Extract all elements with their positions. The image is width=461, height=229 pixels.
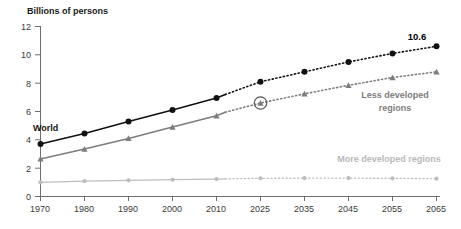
data-point-marker <box>302 176 306 180</box>
data-point-marker <box>82 130 88 136</box>
data-point-marker <box>345 82 351 88</box>
chart-canvas: Billions of persons 12 10 8 6 4 2 0 <box>0 0 461 229</box>
data-point-marker <box>38 141 44 147</box>
data-point-marker <box>346 59 352 65</box>
data-point-marker <box>258 79 264 85</box>
data-point-marker <box>38 180 42 184</box>
x-tick-1970: 1970 <box>30 204 50 214</box>
y-tick-2: 2 <box>26 164 31 174</box>
x-tick-1980: 1980 <box>74 204 94 214</box>
less-developed-series-label-line1: Less developed <box>361 90 429 100</box>
population-projection-chart: Billions of persons 12 10 8 6 4 2 0 <box>0 0 461 229</box>
y-tick-4: 4 <box>26 135 31 145</box>
series-less-developed-regions <box>37 69 439 162</box>
data-point-marker <box>390 176 394 180</box>
data-point-marker <box>346 176 350 180</box>
series-more-developed-regions <box>38 176 438 184</box>
projection-line <box>225 46 436 94</box>
data-point-marker <box>170 107 176 113</box>
y-axis-tick-labels: 12 10 8 6 4 2 0 <box>21 22 31 202</box>
data-point-marker <box>434 43 440 49</box>
y-tick-0: 0 <box>26 192 31 202</box>
data-point-marker <box>170 178 174 182</box>
data-point-marker <box>126 118 132 124</box>
x-tick-2035: 2035 <box>294 204 314 214</box>
x-tick-2055: 2055 <box>382 204 402 214</box>
y-tick-6: 6 <box>26 107 31 117</box>
y-tick-8: 8 <box>26 79 31 89</box>
historical-line <box>41 179 226 183</box>
less-developed-series-label-line2: regions <box>379 103 412 113</box>
x-axis-tick-labels: 1970 1980 1990 2000 2010 2025 2035 2045 … <box>30 204 446 214</box>
y-tick-12: 12 <box>21 22 31 32</box>
x-tick-2045: 2045 <box>338 204 358 214</box>
data-point-marker <box>390 50 396 56</box>
world-series-label: World <box>33 123 58 133</box>
y-axis-ticks <box>35 27 40 197</box>
x-tick-2000: 2000 <box>162 204 182 214</box>
world-end-value-label: 10.6 <box>408 31 427 42</box>
data-point-marker <box>214 177 218 181</box>
data-point-marker <box>258 176 262 180</box>
y-tick-10: 10 <box>21 50 31 60</box>
data-point-marker <box>214 95 220 101</box>
more-developed-series-label: More developed regions <box>337 154 441 164</box>
x-tick-2010: 2010 <box>206 204 226 214</box>
data-point-marker <box>302 69 308 75</box>
x-tick-2065: 2065 <box>426 204 446 214</box>
data-point-marker <box>126 178 130 182</box>
x-tick-2025: 2025 <box>250 204 270 214</box>
data-point-marker <box>82 179 86 183</box>
projection-line <box>225 178 436 179</box>
y-axis-title: Billions of persons <box>27 6 108 16</box>
data-point-marker <box>434 177 438 181</box>
x-tick-1990: 1990 <box>118 204 138 214</box>
historical-line <box>41 112 226 159</box>
